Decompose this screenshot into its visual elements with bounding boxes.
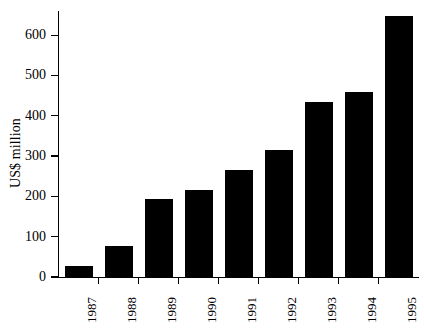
x-axis-tick-label: 1991 bbox=[245, 297, 258, 323]
x-axis-tick-label: 1989 bbox=[165, 297, 178, 323]
x-axis-tick bbox=[138, 277, 139, 284]
x-axis-tick-label: 1990 bbox=[205, 297, 218, 323]
x-axis-line bbox=[58, 277, 419, 278]
bar bbox=[225, 170, 254, 277]
y-axis-tick bbox=[51, 75, 59, 76]
x-axis-tick bbox=[98, 277, 99, 284]
x-axis-tick-label: 1993 bbox=[325, 297, 338, 323]
x-axis-tick-label: 1994 bbox=[365, 297, 378, 323]
y-axis-tick-label: 300 bbox=[0, 149, 46, 163]
bar bbox=[145, 199, 174, 277]
x-axis-tick bbox=[178, 277, 179, 284]
y-axis-tick bbox=[51, 236, 59, 237]
bar-chart: US$ million 0100200300400500600 19871988… bbox=[0, 0, 424, 329]
x-axis-tick bbox=[298, 277, 299, 284]
y-axis-tick bbox=[51, 196, 59, 197]
x-axis-tick bbox=[258, 277, 259, 284]
x-axis-tick-label: 1988 bbox=[125, 297, 138, 323]
y-axis-tick-label: 400 bbox=[0, 109, 46, 123]
y-axis-tick bbox=[51, 155, 59, 156]
y-axis-tick bbox=[51, 35, 59, 36]
y-axis-tick-label: 500 bbox=[0, 68, 46, 82]
y-axis-tick-label: 600 bbox=[0, 28, 46, 42]
x-axis-tick bbox=[218, 277, 219, 284]
x-axis-tick bbox=[338, 277, 339, 284]
bar bbox=[265, 150, 294, 277]
bar bbox=[305, 102, 334, 277]
x-axis-tick bbox=[378, 277, 379, 284]
bar bbox=[65, 266, 94, 277]
y-axis-tick bbox=[51, 115, 59, 116]
y-axis-tick-label: 200 bbox=[0, 189, 46, 203]
y-axis-line bbox=[58, 11, 59, 278]
bar bbox=[105, 246, 134, 277]
x-axis-tick-label: 1995 bbox=[405, 297, 418, 323]
x-axis-tick-label: 1987 bbox=[85, 297, 98, 323]
y-axis-tick-label: 0 bbox=[0, 270, 46, 284]
bar bbox=[345, 92, 374, 277]
bar bbox=[185, 190, 214, 277]
y-axis-tick-label: 100 bbox=[0, 230, 46, 244]
bar bbox=[385, 16, 414, 277]
y-axis-tick bbox=[51, 276, 59, 277]
x-axis-tick-label: 1992 bbox=[285, 297, 298, 323]
